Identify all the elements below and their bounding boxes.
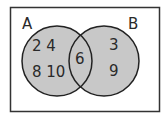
venn-diagram: A B 2 4 8 10 6 3 9 [0,0,168,119]
set-a-label: A [22,15,33,33]
set-b-label: B [128,15,138,33]
set-b-elements-row2: 9 [109,62,119,80]
set-a-elements-row1: 2 4 [32,37,56,55]
intersection-elements: 6 [75,50,85,68]
set-b-elements-row1: 3 [109,36,119,54]
set-a-elements-row2: 8 10 [32,63,65,81]
